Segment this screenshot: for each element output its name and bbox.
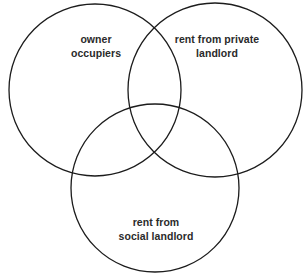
label-social-landlord: rent from social landlord [100,216,212,243]
label-owner-occupiers: owner occupiers [48,33,144,60]
venn-diagram: owner occupiers rent from private landlo… [0,0,308,278]
circle-social-landlord [71,104,239,272]
circle-owner-occupiers [9,4,181,176]
label-private-landlord: rent from private landlord [164,33,270,60]
circle-private-landlord [128,3,302,177]
